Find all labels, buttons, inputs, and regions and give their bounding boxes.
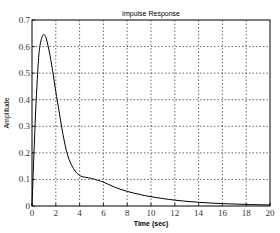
y-axis-label: Amplitude (3, 97, 11, 128)
x-tick-label: 8 (125, 208, 130, 218)
x-axis-ticks: 02468101214161820 (30, 203, 275, 218)
impulse-response-chart: Impulse Response 00.10.20.30.40.50.60.7 … (0, 0, 280, 233)
x-tick-label: 4 (77, 208, 82, 218)
x-tick-label: 14 (194, 208, 204, 218)
x-tick-label: 6 (101, 208, 106, 218)
y-tick-label: 0.7 (19, 15, 31, 25)
grid-lines (32, 20, 270, 206)
x-tick-label: 16 (218, 208, 228, 218)
y-tick-label: 0.3 (19, 121, 31, 131)
y-tick-label: 0.1 (19, 174, 30, 184)
y-tick-label: 0.6 (19, 42, 31, 52)
chart-title: Impulse Response (122, 10, 180, 18)
x-tick-label: 18 (242, 208, 252, 218)
x-tick-label: 20 (266, 208, 276, 218)
x-tick-label: 10 (147, 208, 157, 218)
x-tick-label: 12 (170, 208, 179, 218)
y-tick-label: 0.4 (19, 95, 31, 105)
y-tick-label: 0.5 (19, 68, 31, 78)
x-axis-label: Time (sec) (134, 220, 169, 228)
x-tick-label: 2 (54, 208, 59, 218)
x-tick-label: 0 (30, 208, 35, 218)
y-tick-label: 0.2 (19, 148, 30, 158)
impulse-response-curve (32, 35, 270, 206)
